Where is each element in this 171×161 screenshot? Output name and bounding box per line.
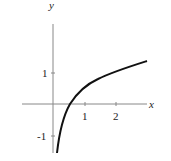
y-tick-label-m1: -1 xyxy=(37,130,46,142)
log-curve xyxy=(57,61,147,153)
chart: x y 1 2 1 -1 xyxy=(0,0,171,161)
y-axis-label: y xyxy=(48,0,54,11)
x-tick-label-2: 2 xyxy=(113,110,119,122)
x-tick-label-1: 1 xyxy=(82,110,88,122)
y-tick-label-1: 1 xyxy=(42,67,48,79)
x-axis-label: x xyxy=(148,98,154,110)
